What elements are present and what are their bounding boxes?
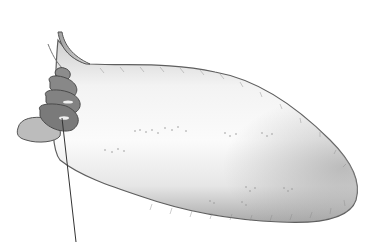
body xyxy=(53,40,358,222)
gastropod-illustration xyxy=(0,0,368,244)
